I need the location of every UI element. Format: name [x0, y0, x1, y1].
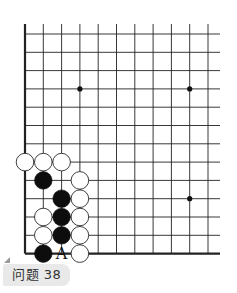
white-stone[interactable] [71, 190, 89, 208]
star-point-icon [187, 196, 192, 201]
white-stone[interactable] [71, 208, 89, 226]
black-stone[interactable] [53, 208, 71, 226]
star-point-icon [77, 86, 82, 91]
point-marker-label[interactable]: A [55, 244, 68, 263]
white-stone[interactable] [35, 153, 53, 171]
white-stone[interactable] [16, 153, 34, 171]
black-stone[interactable] [53, 190, 71, 208]
go-board[interactable]: A [0, 0, 237, 293]
corner-tab-mark [4, 257, 10, 263]
white-stone[interactable] [35, 227, 53, 245]
white-stone[interactable] [53, 153, 71, 171]
markers-layer: A [55, 244, 68, 263]
black-stone[interactable] [35, 245, 53, 263]
stones-layer [16, 153, 89, 262]
white-stone[interactable] [71, 245, 89, 263]
problem-label: 问题 38 [3, 264, 70, 286]
white-stone[interactable] [35, 208, 53, 226]
white-stone[interactable] [71, 172, 89, 190]
star-point-icon [187, 86, 192, 91]
black-stone[interactable] [35, 172, 53, 190]
white-stone[interactable] [71, 227, 89, 245]
black-stone[interactable] [53, 227, 71, 245]
